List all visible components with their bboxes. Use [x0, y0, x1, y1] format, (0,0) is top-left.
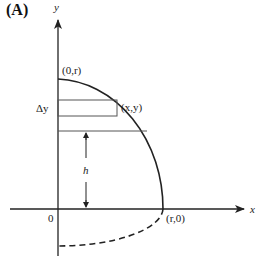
point-top-label: (0,r): [62, 64, 82, 77]
x-axis-label: x: [249, 203, 255, 215]
dashed-arc: [58, 209, 163, 246]
delta-y-label: Δy: [36, 102, 49, 114]
panel-label: (A): [6, 1, 28, 19]
solid-arc: [58, 79, 163, 209]
origin-label: 0: [48, 212, 54, 224]
strip-rectangle: [58, 100, 117, 116]
h-label: h: [83, 164, 89, 176]
point-right-label: (r,0): [166, 212, 185, 225]
semicircle-diagram: (A) y x 0 h (0,r) (x,y) (r,0) Δy: [0, 0, 258, 263]
y-axis-label: y: [53, 1, 59, 13]
point-curve-label: (x,y): [121, 101, 142, 114]
